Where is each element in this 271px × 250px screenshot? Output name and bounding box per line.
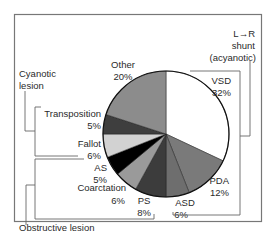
lr-shunt-label-line2: shunt: [232, 40, 256, 51]
slice-value-as: 5%: [93, 174, 107, 185]
slice-value-other: 20%: [113, 71, 133, 82]
lr-shunt-label-line3: (acyanotic): [210, 52, 256, 63]
slice-label-as: AS: [94, 162, 107, 173]
slice-label-other: Other: [111, 59, 135, 70]
slice-label-vsd: VSD: [211, 75, 231, 86]
lr-shunt-label-line1: L→R: [233, 28, 255, 39]
slice-value-asd: 6%: [174, 209, 188, 220]
cyanotic-label-line1: Cyanotic: [19, 68, 56, 79]
slice-label-asd: ASD: [175, 197, 195, 208]
slice-value-vsd: 32%: [212, 87, 232, 98]
slice-label-ps: PS: [138, 195, 151, 206]
slice-value-transposition: 5%: [87, 120, 101, 131]
slice-value-fallot: 6%: [87, 150, 101, 161]
cyanotic-label-line2: lesion: [19, 80, 44, 91]
congenital-heart-disease-pie-figure: VSD32%PDA12%ASD6%PS8%Coarctation6%AS5%Fa…: [0, 0, 271, 250]
obstructive-label: Obstructive lesion: [19, 222, 95, 233]
slice-value-pda: 12%: [210, 187, 230, 198]
slice-label-pda: PDA: [209, 175, 229, 186]
slice-label-fallot: Fallot: [78, 138, 102, 149]
slice-value-ps: 8%: [137, 207, 151, 218]
slice-label-transposition: Transposition: [44, 108, 101, 119]
cyanotic-bracket: [25, 91, 78, 156]
slice-value-coarctation: 6%: [111, 195, 125, 206]
